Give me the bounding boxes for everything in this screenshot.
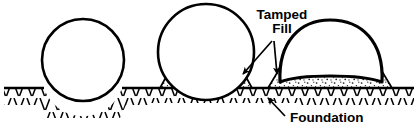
pipe-bedding-diagram: Tamped Fill Foundation [0,0,418,126]
unbedded-round-pipe [42,19,124,101]
tamped-fill-label-line1: Tamped [257,7,308,22]
tamped-fill-leader-right [274,41,277,74]
foundation-label: Foundation [290,110,363,125]
deformed-flattened-pipe [280,20,382,82]
round-pipe-on-tamped-fill [158,4,254,100]
tamped-fill-label-line2: Fill [272,21,292,36]
diagram-canvas: Tamped Fill Foundation [0,0,418,126]
